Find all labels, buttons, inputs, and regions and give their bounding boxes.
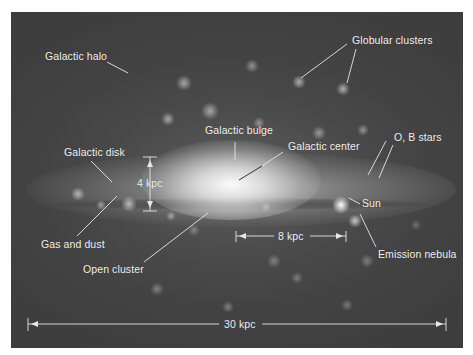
label-sun-distance: 8 kpc — [278, 230, 304, 242]
disk-pointer — [91, 161, 112, 182]
label-disk-thickness: 4 kpc — [137, 177, 163, 189]
globular-pointer-1 — [301, 44, 347, 78]
halo-pointer — [107, 62, 128, 73]
label-ob-stars: O, B stars — [394, 131, 442, 143]
globular-pointer-2 — [347, 49, 356, 83]
open-cluster-pointer — [144, 213, 208, 262]
gas-dust-pointer — [77, 196, 117, 236]
label-gas-and-dust: Gas and dust — [41, 238, 105, 250]
center-pointer-dark — [239, 166, 262, 180]
label-globular-clusters: Globular clusters — [352, 34, 432, 46]
label-sun: Sun — [362, 197, 381, 209]
center-pointer — [262, 152, 283, 166]
label-open-cluster: Open cluster — [83, 263, 144, 275]
label-galactic-halo: Galactic halo — [45, 50, 107, 62]
label-galaxy-diameter: 30 kpc — [224, 318, 256, 330]
sun-pointer — [349, 198, 360, 204]
label-galactic-disk: Galactic disk — [64, 146, 125, 158]
ob-pointer-1 — [368, 141, 386, 175]
nebula-pointer — [360, 214, 376, 247]
label-galactic-bulge: Galactic bulge — [205, 124, 273, 136]
label-galactic-center: Galactic center — [288, 140, 360, 152]
label-emission-nebula: Emission nebula — [378, 248, 457, 260]
